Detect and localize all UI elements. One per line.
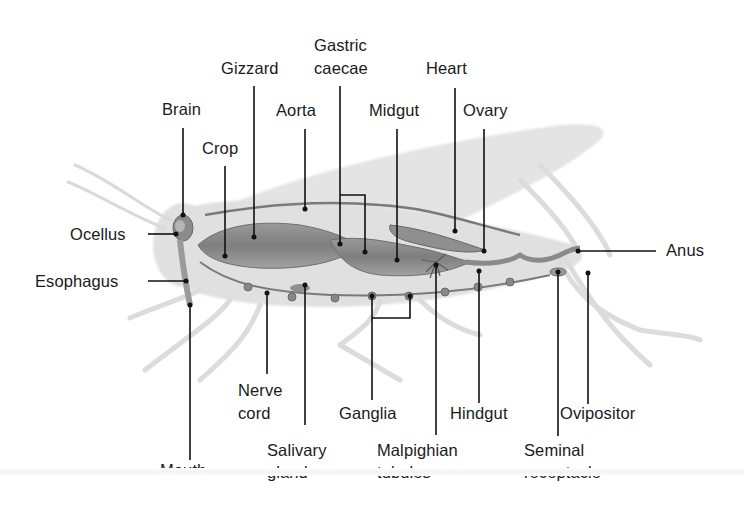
cockroach-anatomy-diagram: Gastric caecae Gizzard Heart Brain Aorta… (0, 0, 744, 506)
label-gizzard: Gizzard (221, 58, 279, 78)
label-gastric-caecae-line1: Gastric (314, 35, 367, 55)
diagram-artwork (0, 0, 744, 506)
label-nerve-cord-line1: Nerve (238, 380, 283, 400)
label-ganglia: Ganglia (339, 403, 397, 423)
label-aorta: Aorta (276, 100, 316, 120)
label-gastric-caecae-line2: caecae (314, 58, 368, 78)
label-crop: Crop (202, 138, 238, 158)
label-hindgut: Hindgut (450, 403, 508, 423)
label-seminal-receptacle-line1: Seminal (524, 440, 584, 460)
label-ocellus: Ocellus (70, 224, 126, 244)
label-anus: Anus (666, 240, 704, 260)
label-malpighian-tubules-line1: Malpighian (377, 440, 458, 460)
label-salivary-gland-line1: Salivary (267, 440, 327, 460)
label-heart: Heart (426, 58, 467, 78)
label-ovary: Ovary (463, 100, 508, 120)
antennae (68, 165, 170, 228)
label-esophagus: Esophagus (35, 271, 118, 291)
label-brain: Brain (162, 99, 201, 119)
label-nerve-cord-line2: cord (238, 403, 271, 423)
label-midgut: Midgut (369, 100, 419, 120)
bottom-scan-fade (0, 468, 744, 476)
label-ovipositor: Ovipositor (560, 403, 635, 423)
